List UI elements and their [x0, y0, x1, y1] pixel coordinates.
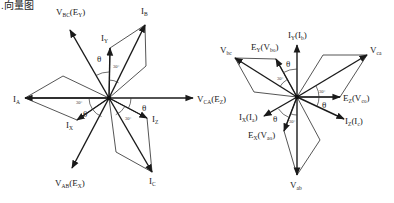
right-origin-dot: [295, 95, 299, 99]
right-30deg-angle-2: 30°: [319, 89, 326, 94]
left-angle-arc-theta-right: [128, 98, 131, 108]
left-angle-arc-theta-top: [96, 72, 109, 75]
left-vector-i-y: [109, 48, 110, 98]
right-phasor-diagram: IY(Ib)VbcEY(Vbo)VcaEZ(Vco)IZ(Ic)IX(Ia)EX…: [220, 30, 382, 191]
caption-fragment: …向量图: [0, 0, 34, 11]
left-angle-arc-30-right: [116, 106, 125, 114]
left-label-i-a: IA: [13, 94, 20, 105]
left-label-i-x: IX: [66, 120, 73, 131]
right-angle-arc-theta-right: [317, 97, 319, 106]
right-angle-arc-theta-bottom: [279, 109, 290, 118]
left-label-i-c: IC: [149, 176, 156, 187]
left-theta-angle-4: θ: [142, 103, 146, 113]
right-label-i-y-i-b: IY(Ib): [288, 30, 307, 41]
right-vector-i-x-i-a: [264, 97, 297, 116]
left-theta-angle-3: θ: [83, 109, 87, 119]
right-30deg-angle-1: 30°: [277, 76, 284, 81]
right-label-v-ca: Vca: [370, 45, 382, 56]
left-angle-arc-30-left: [89, 98, 92, 109]
right-label-i-z-i-c: IZ(Ic): [345, 116, 363, 127]
right-label-e-y-v-bo: EY(Vbo): [251, 42, 278, 53]
right-label-v-ab: Vab: [290, 180, 302, 191]
right-label-i-x-i-a: IX(Ia): [239, 112, 257, 123]
right-label-v-bc: Vbc: [220, 45, 232, 56]
right-vector-i-z-i-c: [297, 97, 344, 119]
right-label-e-z-v-co: EZ(Vco): [343, 93, 370, 104]
left-phasor-diagram: VBC(EY)IBIYIAVCA(EZ)IXVAB(EX)IZICθ30°30°…: [13, 6, 226, 189]
left-label-v-bc-e-y: VBC(EY): [56, 7, 85, 18]
left-label-v-ab-e-x: VAB(EX): [55, 178, 85, 189]
left-theta-angle-0: θ: [97, 54, 101, 64]
right-parallelogram-2: [284, 97, 320, 175]
left-origin-dot: [107, 96, 111, 100]
right-angle-arc-30-bottom: [291, 114, 297, 115]
right-label-e-x-v-ao: EX(Vao): [248, 130, 275, 141]
left-30deg-angle-2: 30°: [76, 100, 83, 105]
right-angle-arc-theta-top: [283, 69, 297, 73]
right-30deg-angle-5: 30°: [289, 119, 296, 124]
left-label-v-ca-e-z: VCA(EZ): [197, 94, 226, 105]
right-theta-angle-0: θ: [286, 59, 290, 69]
phasor-diagram-canvas: …向量图 VBC(EY)IBIYIAVCA(EZ)IXVAB(EX)IZICθ3…: [0, 0, 394, 203]
left-vector-v-ab-e-x: [72, 98, 109, 168]
right-vector-e-x-v-ao: [284, 97, 297, 131]
right-angle-arc-30-right: [316, 86, 319, 97]
left-30deg-angle-1: 30°: [113, 64, 120, 69]
right-vector-v-ca: [297, 55, 367, 97]
left-vector-i-b: [109, 25, 145, 98]
left-parallelogram-1: [25, 76, 109, 98]
right-theta-angle-3: θ: [322, 100, 326, 110]
left-label-i-b: IB: [141, 6, 148, 17]
left-label-i-y: IY: [101, 33, 108, 44]
left-label-i-z: IZ: [152, 114, 159, 125]
left-30deg-angle-5: 30°: [125, 116, 132, 121]
left-parallelogram-2: [25, 98, 109, 120]
right-theta-angle-4: θ: [273, 114, 277, 124]
